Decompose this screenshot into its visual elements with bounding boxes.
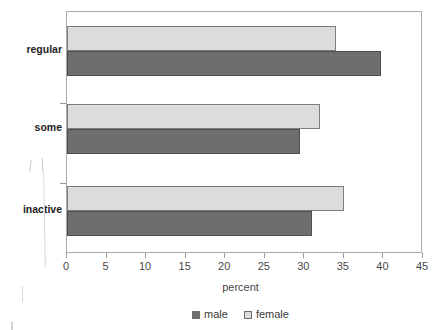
x-tick-label: 40 — [367, 260, 397, 272]
x-tick-mark — [106, 253, 107, 258]
plot-area — [66, 11, 422, 253]
scan-artifact — [43, 172, 46, 267]
scan-artifact — [29, 160, 32, 172]
x-tick-label: 0 — [51, 260, 81, 272]
x-tick-mark — [382, 253, 383, 258]
x-tick-label: 10 — [130, 260, 160, 272]
x-tick-mark — [224, 253, 225, 258]
y-axis-label-inactive: inactive — [2, 203, 62, 215]
x-tick-mark — [343, 253, 344, 258]
x-tick-label: 30 — [288, 260, 318, 272]
y-axis-label-some: some — [2, 121, 62, 133]
y-axis-label-regular: regular — [2, 43, 62, 55]
x-tick-mark — [422, 253, 423, 258]
x-tick-mark — [145, 253, 146, 258]
female-swatch-icon — [244, 311, 252, 319]
x-tick-mark — [185, 253, 186, 258]
x-axis-title: percent — [0, 281, 437, 293]
legend-item-label: male — [204, 308, 228, 320]
x-tick-label: 5 — [91, 260, 121, 272]
bar-chart: regular some inactive percent malefemale… — [0, 0, 437, 330]
x-tick-mark — [66, 253, 67, 258]
legend-item-male: male — [192, 308, 228, 320]
x-axis-title-text: percent — [222, 281, 259, 293]
male-swatch-icon — [192, 311, 200, 319]
legend-item-female: female — [244, 308, 289, 320]
legend: malefemale — [0, 307, 437, 320]
x-tick-label: 45 — [407, 260, 437, 272]
bar-regular-male — [67, 51, 381, 76]
bar-some-male — [67, 129, 300, 154]
bar-some-female — [67, 104, 320, 129]
bar-regular-female — [67, 26, 336, 51]
x-tick-label: 35 — [328, 260, 358, 272]
x-tick-label: 25 — [249, 260, 279, 272]
x-tick-label: 20 — [209, 260, 239, 272]
x-tick-label: 15 — [170, 260, 200, 272]
scan-artifact — [11, 322, 13, 330]
scan-artifact — [42, 158, 44, 172]
legend-item-label: female — [256, 308, 289, 320]
y-tick-mark — [60, 103, 66, 104]
x-tick-mark — [264, 253, 265, 258]
y-tick-mark — [60, 183, 66, 184]
x-tick-mark — [303, 253, 304, 258]
bar-inactive-male — [67, 211, 312, 236]
bar-inactive-female — [67, 186, 344, 211]
